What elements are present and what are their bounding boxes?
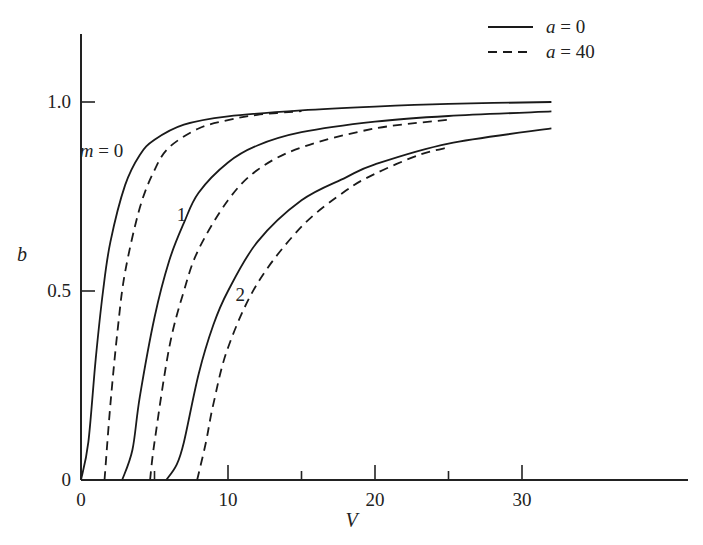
curve-label: 2 (236, 284, 246, 305)
x-axis-title: V (345, 509, 360, 531)
x-tick-label: 20 (366, 489, 385, 510)
y-tick-label: 0 (62, 469, 72, 490)
y-tick-label: 0.5 (47, 280, 71, 301)
curve-m-1-a-0 (122, 111, 551, 480)
x-tick-label: 30 (513, 489, 532, 510)
curve-m-2-a-40 (197, 147, 448, 480)
legend-label: a = 40 (546, 41, 595, 62)
x-tick-label: 0 (76, 489, 86, 510)
y-tick-label: 1.0 (47, 91, 71, 112)
curve-label: 1 (177, 204, 187, 225)
legend-label: a = 0 (546, 16, 585, 37)
curve-m-0-a-0 (81, 102, 551, 480)
legend: a = 0a = 40 (488, 16, 595, 62)
chart: 010203000.51.0 Vbm = 012 a = 0a = 40 (0, 0, 703, 545)
axes (81, 34, 688, 480)
x-tick-label: 10 (219, 489, 238, 510)
curve-m-1-a-40 (150, 120, 448, 480)
y-axis-title: b (17, 243, 27, 265)
curves (81, 102, 551, 480)
curve-label: m = 0 (80, 140, 123, 161)
